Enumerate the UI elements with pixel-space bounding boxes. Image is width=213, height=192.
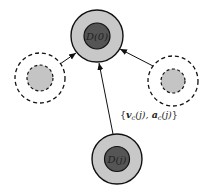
node-label: D(j) xyxy=(107,154,127,165)
diagram-canvas: D(0) D(j) {vc(j), ac(j)} xyxy=(0,0,213,192)
arrow-left-to-top xyxy=(60,53,76,64)
edge-label: {vc(j), ac(j)} xyxy=(120,109,178,122)
arrow-right-to-top xyxy=(120,49,153,66)
node-left xyxy=(15,53,65,103)
arrow-bottom-to-top xyxy=(99,63,113,134)
node-label: D(0) xyxy=(85,31,108,42)
node-top: D(0) xyxy=(71,10,123,62)
node-bottom: D(j) xyxy=(92,134,142,184)
node-right xyxy=(148,56,198,106)
inner-dashed-circle xyxy=(27,65,53,91)
inner-dashed-circle xyxy=(161,69,185,93)
